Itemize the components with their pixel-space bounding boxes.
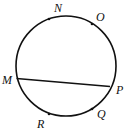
label-n: N — [53, 1, 63, 15]
label-o: O — [96, 10, 105, 24]
circle — [16, 16, 116, 116]
point-r-marker — [48, 113, 51, 116]
point-o-marker — [91, 23, 94, 26]
circle-diagram: N O M P Q R — [0, 0, 132, 139]
chord-mp — [17, 79, 111, 87]
label-m: M — [1, 73, 13, 87]
label-p: P — [115, 83, 124, 97]
point-n-marker — [48, 18, 51, 21]
point-q-marker — [91, 108, 94, 111]
label-r: R — [36, 117, 45, 131]
label-q: Q — [97, 107, 106, 121]
